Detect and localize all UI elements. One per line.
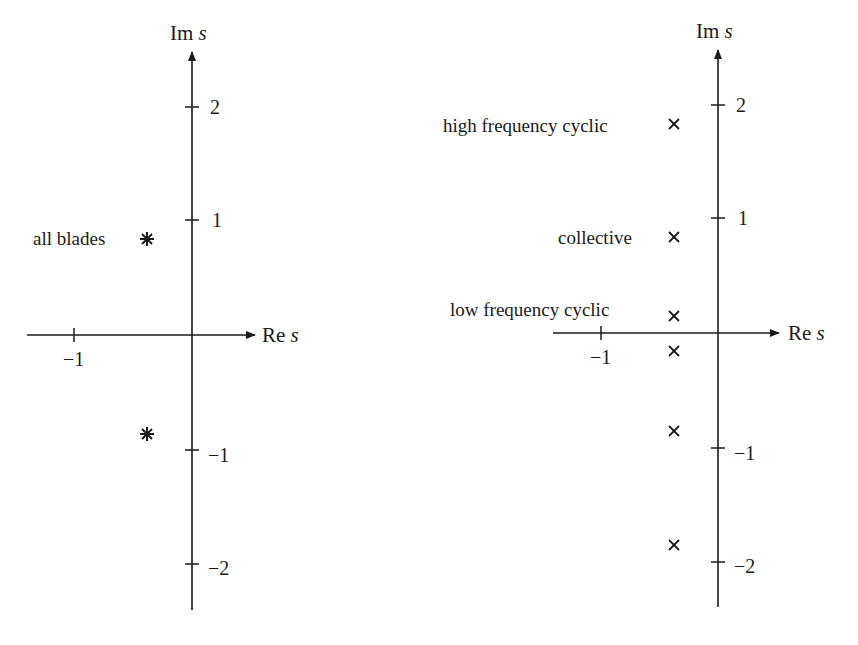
cross-icon — [669, 426, 679, 436]
root-locus-diagram: Im s Re s −1 2 1 −1 −2 all blades — [0, 0, 858, 645]
left-panel: Im s Re s −1 2 1 −1 −2 all blades — [27, 21, 299, 610]
annotation-high-frequency-cyclic: high frequency cyclic — [443, 115, 608, 136]
right-y-tick-label-neg1: −1 — [734, 442, 755, 464]
left-y-tick-label-neg2: −2 — [208, 557, 229, 579]
cross-icon — [669, 311, 679, 321]
right-y-tick-label-2: 2 — [736, 94, 746, 116]
cross-icon — [669, 540, 679, 550]
asterisk-icon — [140, 232, 154, 246]
right-x-tick-label-neg1: −1 — [590, 346, 611, 368]
cross-icon — [669, 119, 679, 129]
asterisk-icon — [140, 427, 154, 441]
right-y-tick-label-neg2: −2 — [734, 555, 755, 577]
left-y-tick-label-2: 2 — [210, 96, 220, 118]
cross-icon — [669, 232, 679, 242]
left-y-tick-label-1: 1 — [212, 209, 222, 231]
right-y-axis-title: Im s — [696, 19, 733, 43]
right-panel: Im s Re s −1 2 1 −1 −2 high frequency cy… — [443, 19, 825, 607]
left-x-axis-title: Re s — [262, 323, 299, 347]
right-x-axis-title: Re s — [788, 321, 825, 345]
annotation-all-blades: all blades — [33, 228, 105, 249]
left-y-tick-label-neg1: −1 — [208, 444, 229, 466]
cross-icon — [669, 346, 679, 356]
left-x-tick-label-neg1: −1 — [63, 348, 84, 370]
annotation-collective: collective — [558, 227, 632, 248]
right-y-tick-label-1: 1 — [738, 207, 748, 229]
left-y-axis-title: Im s — [170, 21, 207, 45]
annotation-low-frequency-cyclic: low frequency cyclic — [450, 299, 609, 320]
